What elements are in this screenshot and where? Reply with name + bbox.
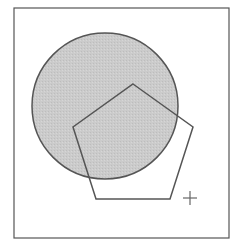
shaded-circle: [32, 33, 178, 179]
diagram-canvas: [0, 0, 232, 242]
